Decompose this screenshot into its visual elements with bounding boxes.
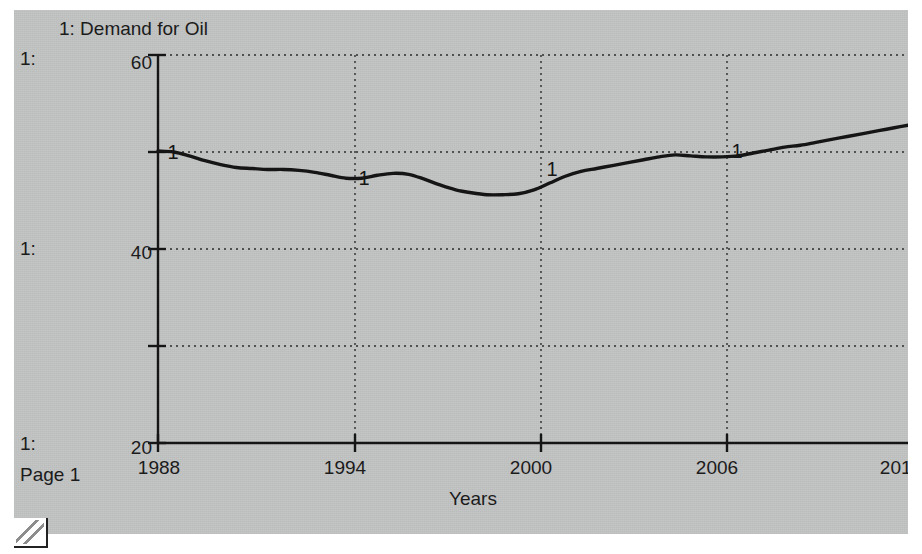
chart-page: 1111 1: Demand for Oil 1: 1: 1: 60 40 20…: [0, 0, 922, 554]
page-label: Page 1: [20, 464, 80, 486]
y-axis-label-60: 60: [102, 52, 152, 74]
series-key-middle: 1:: [20, 238, 36, 260]
y-axis-label-20: 20: [102, 437, 152, 459]
series-marker-label-2: 1: [359, 167, 370, 189]
chart-title: 1: Demand for Oil: [59, 18, 208, 40]
x-axis-label-2012: 2012: [866, 457, 908, 479]
chart-canvas: 1111 1: Demand for Oil 1: 1: 1: 60 40 20…: [14, 10, 908, 534]
x-axis-title: Years: [449, 488, 497, 510]
series-marker-label-3: 1: [547, 158, 558, 180]
series-marker-label-4: 1: [731, 140, 742, 162]
horizontal-gridlines: [158, 55, 908, 346]
series-marker-label-1: 1: [167, 141, 178, 163]
x-axis-label-1988: 1988: [124, 457, 194, 479]
series-line-demand-for-oil: [158, 125, 908, 195]
series-marker-labels: 1111: [167, 140, 742, 189]
y-axis-label-40: 40: [102, 242, 152, 264]
x-axis-label-1994: 1994: [310, 457, 380, 479]
series-key-bottom: 1:: [20, 433, 36, 455]
series-key-top: 1:: [20, 48, 36, 70]
resize-grip-handle[interactable]: [14, 518, 48, 548]
x-axis-label-2000: 2000: [496, 457, 566, 479]
x-axis-label-2006: 2006: [682, 457, 752, 479]
